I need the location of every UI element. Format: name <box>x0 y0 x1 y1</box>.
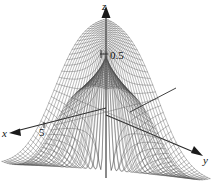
plot-canvas <box>0 0 214 188</box>
z-axis-label: z <box>102 1 106 12</box>
surface-plot-figure: z x y 0.5 5 <box>0 0 214 188</box>
x-axis-tick-label: 5 <box>39 127 45 138</box>
z-axis-tick-label: 0.5 <box>110 50 124 61</box>
y-axis-label: y <box>203 155 208 166</box>
x-axis-label: x <box>2 128 7 139</box>
